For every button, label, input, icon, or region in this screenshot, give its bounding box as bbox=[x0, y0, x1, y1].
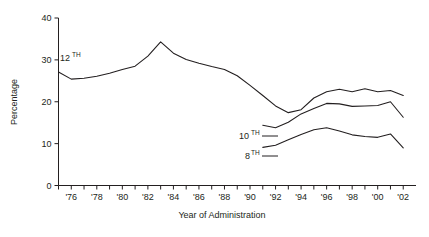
x-tick-label: '90 bbox=[244, 192, 256, 202]
y-axis-ticks bbox=[55, 18, 59, 186]
y-axis-tick-labels: 010203040 bbox=[41, 13, 51, 191]
x-tick-label: '80 bbox=[116, 192, 128, 202]
series-label-12th-sup: TH bbox=[72, 51, 81, 58]
series-label-12th-text: 12 bbox=[60, 53, 70, 63]
y-tick-label: 30 bbox=[41, 55, 51, 65]
data-series-group bbox=[59, 42, 404, 148]
series-label-10th-sup: TH bbox=[251, 129, 260, 136]
x-axis-title: Year of Administration bbox=[178, 210, 265, 220]
x-tick-label: '02 bbox=[397, 192, 409, 202]
series-line-12th bbox=[59, 42, 404, 113]
series-line-10th bbox=[263, 102, 403, 128]
x-tick-label: '94 bbox=[295, 192, 307, 202]
series-label-8th-text: 8 bbox=[245, 151, 250, 161]
series-label-10th: 10 TH bbox=[239, 129, 278, 142]
series-line-8th bbox=[263, 128, 403, 148]
x-tick-label: '76 bbox=[65, 192, 77, 202]
x-tick-label: '98 bbox=[346, 192, 358, 202]
series-label-8th: 8 TH bbox=[245, 149, 278, 162]
x-tick-label: '96 bbox=[321, 192, 333, 202]
x-tick-label: '78 bbox=[91, 192, 103, 202]
x-tick-label: '82 bbox=[142, 192, 154, 202]
x-axis-ticks bbox=[59, 186, 404, 190]
x-tick-label: '86 bbox=[193, 192, 205, 202]
x-axis-tick-labels: '76'78'80'82'84'86'88'90'92'94'96'98'00'… bbox=[65, 192, 409, 202]
series-label-8th-sup: TH bbox=[251, 149, 260, 156]
line-chart: 010203040 '76'78'80'82'84'86'88'90'92'94… bbox=[0, 0, 429, 237]
series-label-12th: 12 TH bbox=[60, 51, 81, 64]
y-tick-label: 40 bbox=[41, 13, 51, 23]
y-tick-label: 20 bbox=[41, 97, 51, 107]
y-tick-label: 10 bbox=[41, 139, 51, 149]
chart-svg: 010203040 '76'78'80'82'84'86'88'90'92'94… bbox=[0, 0, 429, 237]
x-tick-label: '88 bbox=[219, 192, 231, 202]
y-axis-title: Percentage bbox=[9, 79, 19, 125]
series-label-10th-text: 10 bbox=[239, 131, 249, 141]
x-tick-label: '84 bbox=[168, 192, 180, 202]
x-tick-label: '92 bbox=[270, 192, 282, 202]
y-tick-label: 0 bbox=[46, 181, 51, 191]
x-tick-label: '00 bbox=[372, 192, 384, 202]
